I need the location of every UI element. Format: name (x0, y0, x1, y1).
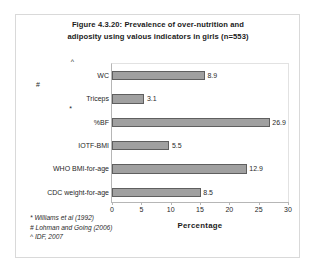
category-label-iotf-bmi: IOTF-BMI (17, 142, 112, 149)
x-tick (229, 202, 230, 205)
plot-area: ^ WC 8.9 # Triceps 3.1 * %BF 26.9 IOTF-B… (111, 63, 289, 203)
bar-row: WHO BMI-for-age 12.9 (112, 157, 288, 180)
bar-row: IOTF-BMI 5.5 (112, 134, 288, 157)
category-label-triceps: Triceps (17, 95, 112, 102)
bar-value-iotf-bmi: 5.5 (172, 142, 182, 149)
bar-value-wc: 8.9 (207, 72, 217, 79)
bar-triceps[interactable] (112, 94, 144, 104)
x-tick (171, 202, 172, 205)
bar-iotf-bmi[interactable] (112, 141, 169, 151)
bar-row: # Triceps 3.1 (112, 87, 288, 110)
category-marker: # (36, 81, 40, 88)
bar-value-pct-bf: 26.9 (272, 119, 286, 126)
footnote-lohman-going: # Lohman and Going (2006) (30, 223, 112, 233)
bar-row: * %BF 26.9 (112, 111, 288, 134)
bar-row: ^ WC 8.9 (112, 64, 288, 87)
bar-value-who-bmi-for-age: 12.9 (249, 165, 263, 172)
chart-title-line-1: Figure 4.3.20: Prevalence of over-nutrit… (28, 19, 288, 31)
x-tick (112, 202, 113, 205)
x-tick-label: 20 (225, 206, 233, 213)
category-label-who-bmi-for-age: WHO BMI-for-age (17, 165, 112, 172)
x-tick (288, 202, 289, 205)
x-tick-label: 5 (139, 206, 143, 213)
category-label-pct-bf: %BF (17, 119, 112, 126)
category-label-cdc-weight-for-age: CDC weight-for-age (17, 189, 112, 196)
bar-value-cdc-weight-for-age: 8.5 (203, 189, 213, 196)
x-tick (200, 202, 201, 205)
footnote-idf: ^ IDF, 2007 (30, 232, 112, 242)
category-marker: * (69, 105, 72, 112)
category-label-wc: WC (17, 72, 112, 79)
chart-title-line-2: adiposity using valous indicators in gir… (28, 31, 288, 43)
bar-who-bmi-for-age[interactable] (112, 164, 247, 174)
footnote-williams: * Williams et al (1992) (30, 213, 112, 223)
x-tick (141, 202, 142, 205)
footnotes: * Williams et al (1992) # Lohman and Goi… (30, 213, 112, 242)
x-axis-title: Percentage (111, 221, 289, 230)
chart-title: Figure 4.3.20: Prevalence of over-nutrit… (28, 19, 288, 42)
bar-cdc-weight-for-age[interactable] (112, 188, 201, 198)
category-marker: ^ (71, 58, 74, 65)
bar-value-triceps: 3.1 (147, 95, 157, 102)
bar-pct-bf[interactable] (112, 118, 270, 128)
x-tick-label: 15 (196, 206, 204, 213)
x-tick (259, 202, 260, 205)
figure-frame: Figure 4.3.20: Prevalence of over-nutrit… (15, 14, 300, 258)
bar-wc[interactable] (112, 71, 205, 81)
x-tick-label: 10 (167, 206, 175, 213)
bar-row: CDC weight-for-age 8.5 (112, 181, 288, 204)
x-tick-label: 0 (110, 206, 114, 213)
x-tick-label: 30 (284, 206, 292, 213)
x-tick-label: 25 (255, 206, 263, 213)
